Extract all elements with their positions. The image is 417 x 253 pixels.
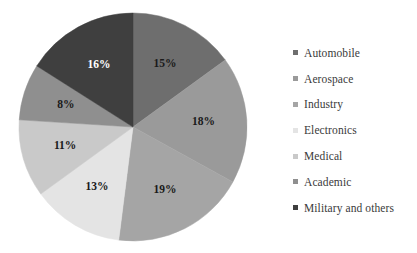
legend-item-label: Military and others [304, 202, 394, 214]
legend-swatch-icon [293, 154, 298, 159]
pie-slice-label: 18% [192, 115, 215, 127]
chart-legend: AutomobileAerospaceIndustryElectronicsMe… [293, 40, 417, 220]
pie-chart-figure: 15%18%19%13%11%8%16% AutomobileAerospace… [0, 0, 417, 253]
pie-slice-label: 8% [57, 98, 74, 110]
legend-item-label: Industry [304, 98, 343, 110]
pie-slice-label: 19% [154, 183, 177, 195]
legend-swatch-icon [293, 76, 298, 81]
legend-item[interactable]: Electronics [293, 117, 417, 143]
legend-item-label: Automobile [304, 47, 360, 59]
legend-item-label: Medical [304, 150, 342, 162]
legend-swatch-icon [293, 205, 298, 210]
legend-item-label: Aerospace [304, 73, 353, 85]
legend-swatch-icon [293, 128, 298, 133]
legend-item[interactable]: Industry [293, 92, 417, 118]
legend-item[interactable]: Aerospace [293, 66, 417, 92]
pie-slice-label: 16% [87, 58, 110, 70]
pie-slice-label: 13% [86, 180, 109, 192]
pie-slice-label: 15% [154, 57, 177, 69]
legend-item[interactable]: Academic [293, 169, 417, 195]
legend-swatch-icon [293, 102, 298, 107]
legend-item[interactable]: Medical [293, 143, 417, 169]
legend-item[interactable]: Military and others [293, 195, 417, 221]
pie-slice-label: 11% [54, 139, 76, 151]
legend-swatch-icon [293, 179, 298, 184]
legend-item[interactable]: Automobile [293, 40, 417, 66]
legend-item-label: Academic [304, 176, 351, 188]
pie-chart-svg: 15%18%19%13%11%8%16% [0, 0, 268, 253]
legend-swatch-icon [293, 50, 298, 55]
pie-chart-plot-area: 15%18%19%13%11%8%16% [0, 0, 268, 253]
legend-item-label: Electronics [304, 124, 357, 136]
